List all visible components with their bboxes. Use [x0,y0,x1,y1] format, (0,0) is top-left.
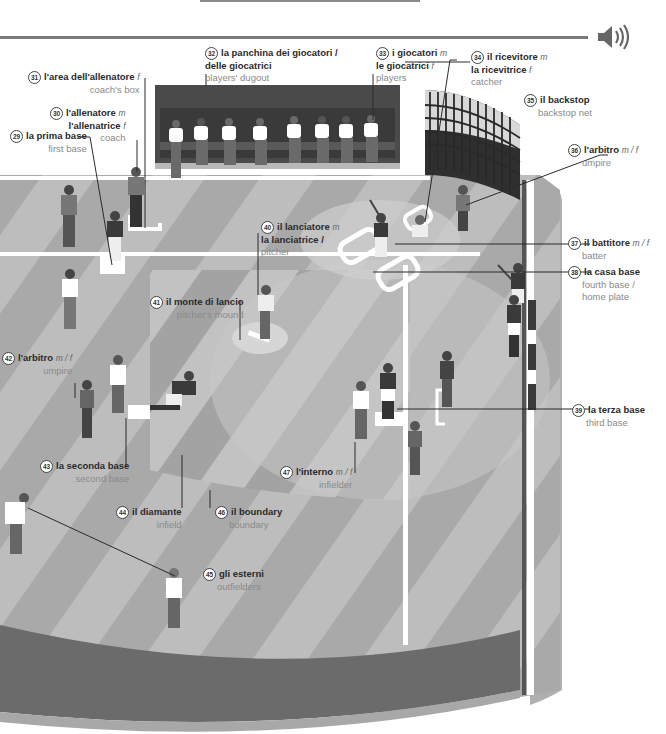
second-base [128,405,150,419]
label-second-base: 43la seconda base second base [40,460,129,485]
label-home-plate: 38la casa base fourth base / home plate [568,266,640,303]
label-catcher: 34il ricevitore m la ricevitrice f catch… [471,51,547,88]
label-infield: 44il diamante infield [116,506,182,531]
label-umpire-36: 36l'arbitro m / f umpire [568,144,638,169]
label-backstop: 35il backstop backstop net [524,94,592,119]
label-umpire-42: 42l'arbitro m / f umpire [2,352,72,377]
label-batter: 37il battitore m / f batter [568,237,649,262]
players-dugout [155,85,400,169]
label-infielder: 47l'interno m / f infielder [280,466,352,491]
label-pitchers-mound: 41il monte di lancio pitcher's mound [150,296,244,321]
label-outfielders: 45gli esterni outfielders [203,568,264,593]
label-players-dugout: 32la panchina dei giocatori / delle gioc… [205,47,338,84]
label-coachs-box: 31l'area dell'allenatore f coach's box [28,71,140,96]
label-boundary: 46il boundary boundary [215,506,282,531]
label-coach: 30l'allenatore m l'allenatrice f coach [50,107,126,144]
label-players: 33i giocatori m le giocatrici f players [376,47,447,84]
label-pitcher: 40il lanciatore m la lanciatrice / pitch… [261,221,340,258]
label-third-base: 39la terza base third base [572,404,645,429]
